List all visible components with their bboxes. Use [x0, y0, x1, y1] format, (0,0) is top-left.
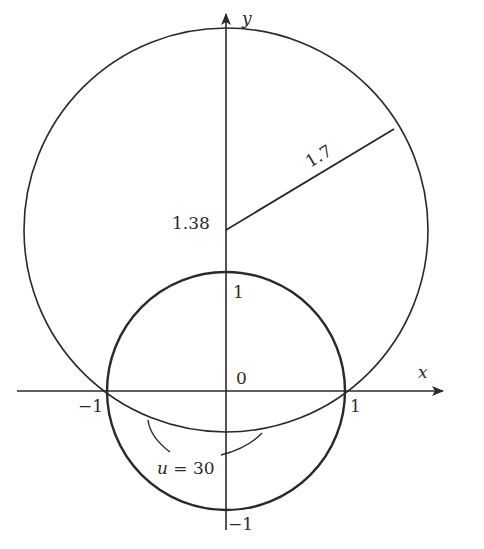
annotation-leader-right — [221, 433, 262, 455]
annotation-u30: u = 30 — [157, 458, 215, 478]
y-tick-1: 1 — [233, 282, 244, 302]
annotation-leader-left — [148, 420, 170, 452]
radius-line — [226, 129, 394, 230]
y-tick-neg1: −1 — [228, 514, 253, 534]
diagram-canvas: y x 0 −1 1 1 −1 1.38 1.7 u = 30 — [0, 0, 484, 549]
y-tick-1-38: 1.38 — [172, 213, 210, 233]
x-tick-1: 1 — [350, 396, 361, 416]
origin-label: 0 — [236, 368, 247, 388]
annotation-u-var: u — [157, 458, 168, 478]
x-tick-neg1: −1 — [78, 396, 103, 416]
y-axis-label: y — [241, 8, 252, 28]
annotation-value: = 30 — [168, 458, 215, 478]
x-axis-label: x — [418, 362, 428, 382]
